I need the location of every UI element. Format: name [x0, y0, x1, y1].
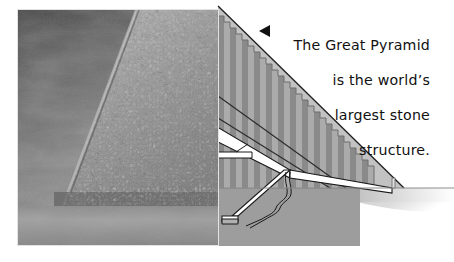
- base-marker-post: [392, 178, 395, 188]
- caption-line-1: The Great Pyramid: [252, 37, 430, 55]
- pyramid-photograph: [18, 10, 218, 245]
- caption-line-3: largest stone: [252, 107, 430, 125]
- caption-line-4: structure.: [252, 142, 430, 160]
- caption-line-2: is the world’s: [252, 72, 430, 90]
- photo-sand-foreground: [18, 206, 218, 245]
- figure-caption: The Great Pyramid is the world’s largest…: [252, 19, 430, 177]
- pyramid-figure: The Great Pyramid is the world’s largest…: [0, 0, 454, 262]
- subterranean-chamber: [222, 219, 238, 224]
